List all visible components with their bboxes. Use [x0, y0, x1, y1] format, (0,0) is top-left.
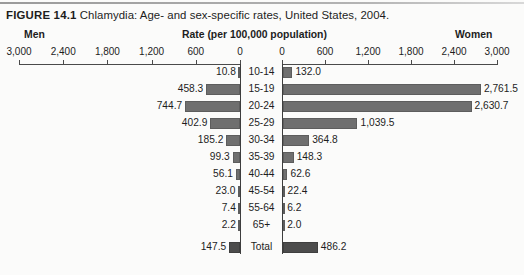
bar-men: [233, 152, 240, 163]
row-label-age-group: 25-29: [241, 116, 282, 130]
pyramid-row: 10.810-14132.0: [0, 64, 524, 81]
bar-men: [210, 118, 240, 129]
bar-value-women: 2.0: [287, 218, 301, 232]
row-label-age-group: 45-54: [241, 184, 282, 198]
bar-men: [185, 101, 240, 112]
figure-number: FIGURE 14.1: [6, 9, 77, 21]
row-label-age-group: 30-34: [241, 133, 282, 147]
row-label-age-group: 40-44: [241, 167, 282, 181]
pyramid-row: 402.925-291,039.5: [0, 115, 524, 132]
bar-men: [238, 67, 240, 78]
axis-tick-label-women: 600: [317, 46, 334, 57]
column-header-men: Men: [24, 29, 45, 40]
bar-value-women: 148.3: [297, 150, 323, 164]
bar-value-men: 744.7: [157, 99, 183, 113]
bar-women: [283, 169, 287, 180]
bar-men: [238, 220, 240, 231]
bar-value-women: 2,761.5: [484, 82, 518, 96]
bar-value-men: 402.9: [182, 116, 208, 130]
bar-value-men: 7.4: [222, 201, 236, 215]
column-header-women: Women: [455, 29, 492, 40]
bar-value-men: 185.2: [198, 133, 224, 147]
pyramid-row: 7.455-646.2: [0, 200, 524, 217]
pyramid-row: 23.045-5422.4: [0, 183, 524, 200]
axis-tick-label-men: 600: [187, 46, 204, 57]
row-label-age-group: 55-64: [241, 201, 282, 215]
axis-tick-label-women: 3,000: [484, 46, 509, 57]
axis-tick-label-men: 0: [237, 46, 243, 57]
bar-value-men: 458.3: [178, 82, 204, 96]
column-header-rate: Rate (per 100,000 population): [182, 29, 327, 40]
bar-value-men: 56.1: [213, 167, 233, 181]
bar-women: [283, 118, 357, 129]
row-label-age-group: 35-39: [241, 150, 282, 164]
bar-men: [236, 169, 240, 180]
pyramid-row: 99.335-39148.3: [0, 149, 524, 166]
bar-women: [283, 220, 285, 231]
bar-women: [283, 101, 472, 112]
axis-tick-label-men: 1,800: [95, 46, 120, 57]
pyramid-row: 744.720-242,630.7: [0, 98, 524, 115]
bar-value-men: 10.8: [216, 65, 236, 79]
axis-tick-label-men: 3,000: [6, 46, 31, 57]
bar-women: [283, 186, 285, 197]
bar-women: [283, 242, 318, 253]
bar-value-women: 486.2: [321, 240, 347, 254]
bar-women: [283, 203, 285, 214]
bar-women: [283, 67, 292, 78]
axis-tick-label-men: 2,400: [51, 46, 76, 57]
pyramid-row: 2.265+2.0: [0, 217, 524, 234]
axis-tick-label-women: 1,800: [398, 46, 423, 57]
row-label-total: Total: [241, 240, 282, 254]
bar-men: [206, 84, 240, 95]
row-label-age-group: 15-19: [241, 82, 282, 96]
figure-caption: FIGURE 14.1 Chlamydia: Age- and sex-spec…: [6, 8, 518, 22]
row-label-age-group: 65+: [241, 218, 282, 232]
row-label-age-group: 20-24: [241, 99, 282, 113]
top-divider-rule: [0, 2, 524, 4]
bar-value-men: 23.0: [215, 184, 235, 198]
bar-value-women: 22.4: [288, 184, 308, 198]
bar-men: [238, 203, 240, 214]
bar-women: [283, 135, 309, 146]
axis-tick-label-women: 1,200: [355, 46, 380, 57]
bar-value-men: 147.5: [201, 240, 227, 254]
axis-scale-area: 3,0002,4001,8001,200600006001,2001,8002,…: [0, 46, 524, 62]
bar-value-women: 6.2: [287, 201, 301, 215]
axis-tick-label-women: 2,400: [441, 46, 466, 57]
bar-value-men: 2.2: [222, 218, 236, 232]
pyramid-row-total: 147.5Total486.2: [0, 239, 524, 256]
bar-value-women: 62.6: [290, 167, 310, 181]
bar-value-women: 2,630.7: [475, 99, 509, 113]
pyramid-row: 185.230-34364.8: [0, 132, 524, 149]
row-label-age-group: 10-14: [241, 65, 282, 79]
pyramid-row: 56.140-4462.6: [0, 166, 524, 183]
figure-caption-text: Chlamydia: Age- and sex-specific rates, …: [80, 9, 389, 21]
bar-men: [238, 186, 240, 197]
pyramid-plot-area: 10.810-14132.0458.315-192,761.5744.720-2…: [0, 64, 524, 254]
bar-women: [283, 152, 294, 163]
axis-tick-label-men: 1,200: [139, 46, 164, 57]
bar-men: [229, 242, 240, 253]
bar-value-women: 1,039.5: [360, 116, 394, 130]
bar-value-men: 99.3: [210, 150, 230, 164]
axis-tick-label-women: 0: [279, 46, 285, 57]
bar-women: [283, 84, 481, 95]
bar-men: [226, 135, 240, 146]
bar-value-women: 364.8: [312, 133, 338, 147]
pyramid-row: 458.315-192,761.5: [0, 81, 524, 98]
bar-value-women: 132.0: [295, 65, 321, 79]
